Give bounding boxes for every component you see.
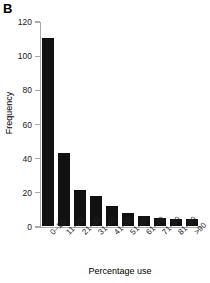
y-tick-label: 40 (0, 155, 32, 164)
y-tick-label: 60 (0, 121, 32, 130)
y-tick-label: 80 (0, 86, 32, 95)
bar (57, 152, 72, 227)
y-tick-mark (35, 21, 40, 22)
chart-panel: B Frequency 020406080100120 0–1011–2021–… (0, 0, 210, 283)
y-tick-label: 0 (0, 223, 32, 232)
y-tick-label: 100 (0, 52, 32, 61)
y-axis-title: Frequency (4, 73, 14, 153)
y-tick-mark (35, 226, 40, 227)
bar (41, 37, 56, 227)
y-tick-mark (35, 90, 40, 91)
y-tick-mark (35, 124, 40, 125)
y-tick-mark (35, 56, 40, 57)
y-tick-mark (35, 158, 40, 159)
y-tick-label: 120 (0, 18, 32, 27)
y-tick-mark (35, 192, 40, 193)
y-tick-label: 20 (0, 189, 32, 198)
x-axis-title: Percentage use (40, 266, 200, 276)
panel-label: B (3, 2, 12, 15)
